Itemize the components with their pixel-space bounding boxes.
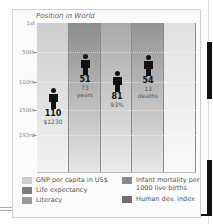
frame-bar-top [207,42,212,99]
marker-gnp: 110 $1230 [37,88,69,125]
metric-value: 93% [101,101,133,108]
metric-unit: deaths [132,92,164,99]
rank-value: 51 [69,76,101,84]
legend-swatch [22,197,32,204]
rank-value: 110 [37,110,69,118]
rank-value: 81 [101,93,133,101]
legend-swatch [122,177,132,184]
marker-infant-mortality: 54 13 deaths [132,55,164,99]
legend-label-line2: 1000 live births [136,184,187,192]
legend-label: Human dev. index [136,195,195,203]
legend-swatch [22,177,32,184]
metric-value: $1230 [37,118,69,125]
legend-swatch [22,187,32,194]
metric-unit: years [69,91,101,98]
y-label-1st: 1st [26,20,35,26]
frame-hook [201,214,212,216]
marker-life-expectancy: 51 73 years [69,54,101,98]
person-icon [48,88,59,109]
legend-label: Infant mortality per [136,176,199,184]
gridline-50th [37,52,196,53]
frame-bar-bottom [207,160,212,216]
person-icon [143,55,154,76]
person-icon [112,71,123,92]
legend-swatch [122,196,132,203]
plot-area: 110 $1230 51 73 years 81 93% 54 13 death… [37,23,196,173]
person-icon [80,54,91,75]
column-hdi [164,23,196,172]
metric-value: 13 [132,85,164,92]
legend-label: GNP per capita in US$ [36,176,108,184]
legend-label: Literacy [36,196,62,204]
chart-title: Position in World [36,12,95,20]
legend-label: Life expectancy [36,186,87,194]
rank-value: 54 [132,77,164,85]
marker-literacy: 81 93% [101,71,133,108]
gridline-193rd [37,135,196,136]
metric-value: 73 [69,84,101,91]
